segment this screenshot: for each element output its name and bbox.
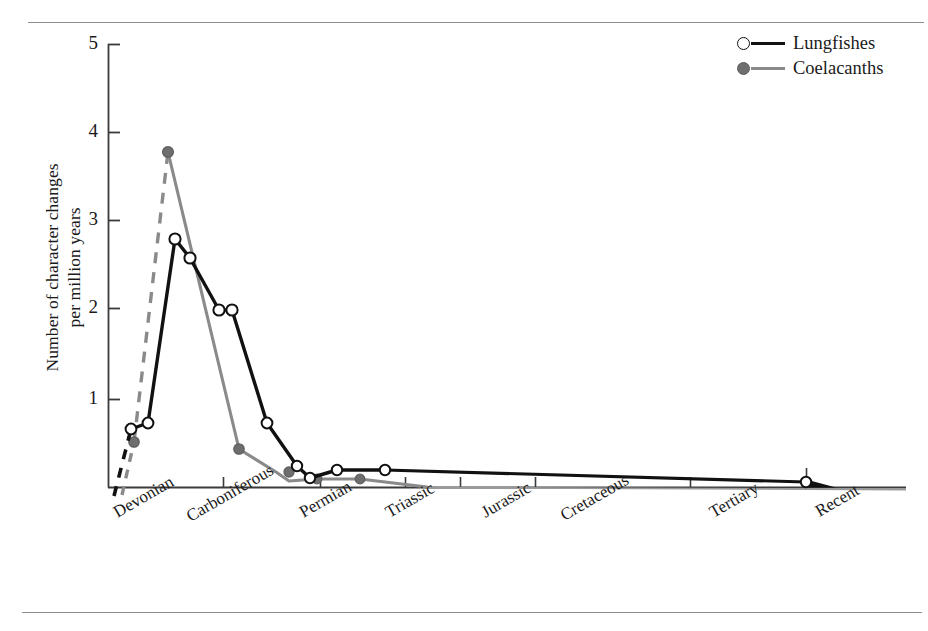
legend-item-lungfishes: Lungfishes bbox=[737, 31, 883, 56]
y-tick-label-4: 4 bbox=[72, 120, 98, 142]
y-tick-label-5: 5 bbox=[72, 32, 98, 54]
lungfishes-markers bbox=[126, 233, 812, 487]
filled-circle-icon bbox=[737, 62, 750, 75]
open-circle-icon bbox=[737, 37, 750, 50]
series-lungfishes bbox=[114, 233, 836, 496]
legend-label-lungfishes: Lungfishes bbox=[793, 30, 875, 57]
chart-legend: Lungfishes Coelacanths bbox=[737, 31, 883, 81]
chart-page: Number of character changes per million … bbox=[0, 0, 928, 631]
y-tick-label-1: 1 bbox=[72, 387, 98, 409]
legend-item-coelacanths: Coelacanths bbox=[737, 56, 883, 81]
y-tick-label-2: 2 bbox=[72, 296, 98, 318]
lungfishes-terminal-arrow bbox=[808, 480, 836, 488]
y-axis-title: Number of character changes per million … bbox=[41, 102, 86, 432]
chart-plot-area bbox=[0, 0, 928, 631]
y-tick-marks bbox=[108, 45, 120, 400]
axis-lines bbox=[108, 44, 906, 488]
legend-label-coelacanths: Coelacanths bbox=[793, 55, 883, 82]
lungfishes-tail bbox=[385, 470, 806, 482]
lungfishes-line bbox=[131, 239, 385, 478]
coelacanths-line bbox=[168, 152, 427, 487]
series-coelacanths bbox=[122, 147, 906, 495]
legend-line-gray bbox=[751, 67, 785, 70]
legend-line-black bbox=[751, 42, 785, 45]
y-tick-label-3: 3 bbox=[72, 208, 98, 230]
